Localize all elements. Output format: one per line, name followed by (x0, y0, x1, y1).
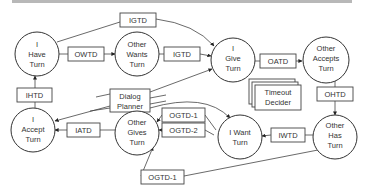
svg-text:Turn: Turn (318, 64, 333, 73)
svg-text:OGTD-1: OGTD-1 (148, 173, 176, 182)
node-i-accept-turn: I Accept Turn (11, 108, 55, 152)
box-ihtd: IHTD (17, 88, 52, 102)
svg-text:Other: Other (317, 44, 336, 53)
edge-iwant-ogtd2 (205, 130, 214, 135)
svg-text:Other: Other (128, 40, 147, 49)
box-igtd-top: IGTD (120, 13, 156, 27)
svg-text:OGTD-2: OGTD-2 (169, 126, 197, 135)
svg-text:Dialog: Dialog (119, 92, 140, 101)
svg-text:Planner: Planner (117, 102, 143, 111)
node-other-has-turn: Other Has Turn (313, 115, 357, 159)
svg-text:Turn: Turn (129, 60, 144, 69)
edge-planner-right-top (150, 95, 166, 98)
box-igtd-mid: IGTD (164, 47, 200, 61)
svg-text:Other: Other (326, 121, 345, 130)
svg-text:IGTD: IGTD (173, 50, 191, 59)
node-other-accepts-turn: Other Accepts Turn (303, 37, 349, 83)
svg-text:I: I (32, 115, 34, 124)
edge-igtd-top-igive (156, 19, 214, 46)
svg-text:Timeout: Timeout (265, 88, 293, 97)
svg-text:OHTD: OHTD (324, 90, 346, 99)
svg-text:OGTD-1: OGTD-1 (169, 111, 197, 120)
box-owtd: OWTD (68, 47, 104, 61)
svg-text:Accept: Accept (22, 125, 46, 134)
svg-text:Has: Has (328, 131, 342, 140)
box-iatd: IATD (67, 123, 100, 137)
box-ogtd1-top: OGTD-1 (162, 108, 205, 122)
edge-planner-right-bottom (150, 101, 166, 104)
node-other-gives-turn: Other Gives Turn (115, 111, 159, 155)
node-i-want-turn: I Want Turn (218, 115, 262, 159)
edge-planner-igive (150, 69, 212, 92)
svg-text:Turn: Turn (327, 141, 342, 150)
svg-text:Turn: Turn (225, 64, 240, 73)
svg-text:OATD: OATD (268, 57, 289, 66)
box-ohtd: OHTD (317, 87, 353, 101)
svg-text:Have: Have (28, 50, 46, 59)
svg-text:Turn: Turn (232, 138, 247, 147)
svg-text:Turn: Turn (25, 135, 40, 144)
edge-iwtd-iwant (262, 135, 271, 136)
edge-planner-left-top (96, 94, 110, 97)
svg-text:IGTD: IGTD (129, 16, 147, 25)
svg-text:Other: Other (128, 118, 147, 127)
edge-igtd-igive (200, 54, 211, 56)
node-i-have-turn: I Have Turn (15, 32, 59, 76)
svg-text:Give: Give (225, 54, 240, 63)
svg-text:IWTD: IWTD (278, 131, 298, 140)
svg-text:Wants: Wants (127, 50, 148, 59)
svg-text:Turn: Turn (29, 60, 44, 69)
box-oatd: OATD (260, 54, 296, 68)
box-ogtd2: OGTD-2 (162, 123, 205, 137)
edge-planner-iaccept (55, 106, 110, 121)
svg-text:IHTD: IHTD (26, 91, 44, 100)
svg-text:IATD: IATD (75, 126, 92, 135)
node-other-wants-turn: Other Wants Turn (115, 32, 159, 76)
node-i-give-turn: I Give Turn (211, 38, 255, 82)
edge-ogtd1-ogives (157, 115, 162, 122)
svg-text:I: I (232, 44, 234, 53)
turn-taking-diagram: IGTD OWTD IGTD OATD Timeout Decider OHTD… (0, 0, 366, 192)
svg-text:OWTD: OWTD (75, 50, 98, 59)
svg-text:Gives: Gives (127, 128, 146, 137)
edge-ihave-igtd-top (57, 22, 120, 42)
box-timeout-decider: Timeout Decider (249, 79, 301, 110)
svg-text:I: I (36, 40, 38, 49)
svg-text:Accepts: Accepts (313, 54, 340, 63)
box-iwtd: IWTD (271, 128, 305, 142)
box-dialog-planner: Dialog Planner (110, 89, 150, 112)
svg-text:I Want: I Want (229, 128, 251, 137)
box-ogtd1-bottom: OGTD-1 (141, 170, 184, 184)
svg-text:Turn: Turn (129, 138, 144, 147)
svg-text:Decider: Decider (265, 98, 291, 107)
edge-iwant-ogtd1 (205, 115, 216, 130)
